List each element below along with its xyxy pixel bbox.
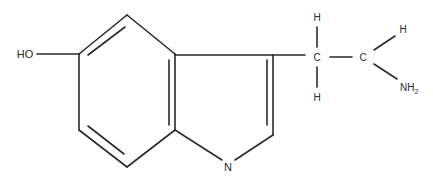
- amine-subscript: 2: [414, 88, 418, 95]
- atom-label-side-chain-carbon-1: C: [313, 52, 320, 63]
- atom-label-ring-nitrogen: N: [224, 161, 232, 173]
- atom-label-hydrogen-top: H: [313, 12, 320, 23]
- bond-c7a-c7: [127, 130, 175, 167]
- bond-cb-nh2: [374, 64, 397, 79]
- atom-label-hydrogen-bottom: H: [313, 92, 320, 103]
- bond-n-c2: [235, 135, 273, 160]
- atom-label-hydroxyl: HO: [17, 48, 34, 60]
- bond-c7-c6: [79, 130, 127, 167]
- bond-c7-c6-inner: [88, 126, 124, 154]
- bond-c5-c4: [79, 15, 127, 54]
- bond-c7a-n: [175, 130, 222, 160]
- bond-cb-h: [374, 36, 395, 50]
- bond-lines: [37, 15, 397, 167]
- atom-label-amine: NH2: [400, 82, 418, 95]
- atom-label-hydrogen-right: H: [399, 24, 406, 35]
- serotonin-structure-diagram: HO N C H H C H NH2: [0, 0, 433, 176]
- amine-main-text: NH: [400, 82, 414, 93]
- bond-c4-c4a: [127, 15, 175, 54]
- atom-label-side-chain-carbon-2: C: [359, 52, 366, 63]
